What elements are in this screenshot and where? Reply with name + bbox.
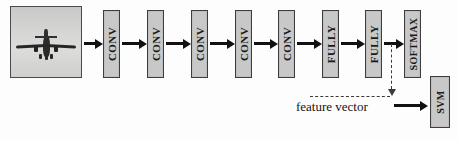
arrow-0 (84, 42, 96, 45)
layer-block-conv1: CONV (103, 10, 120, 78)
airplane-stabilizer-left (35, 36, 46, 38)
airplane-wing-right (46, 44, 76, 49)
layer-block-fully1: FULLY (322, 10, 339, 78)
feature-vector-label: feature vector (296, 99, 368, 115)
airplane-engine-left (34, 46, 38, 52)
arrow-5 (297, 42, 315, 45)
layer-block-conv3: CONV (191, 10, 208, 78)
arrow-3 (210, 42, 228, 45)
layer-block-label-conv2: CONV (150, 27, 162, 61)
layer-block-fully2: FULLY (365, 10, 382, 78)
airplane-landing-gear-left (39, 54, 42, 59)
layer-block-label-softmax: SOFTMAX (407, 18, 418, 71)
input-image (10, 6, 82, 78)
layer-block-label-fully2: FULLY (368, 25, 380, 63)
feature-vector-tap-arrow (391, 44, 392, 89)
layer-block-label-conv4: CONV (238, 27, 250, 61)
svm-block-label: SVM (435, 90, 446, 113)
layer-block-label-fully1: FULLY (325, 25, 337, 63)
airplane-landing-gear-right (50, 54, 53, 59)
layer-block-conv5: CONV (278, 10, 295, 78)
arrow-2 (166, 42, 184, 45)
arrow-to-svm (394, 104, 421, 107)
arrow-4 (254, 42, 271, 45)
airplane-icon (11, 33, 81, 63)
layer-block-label-conv3: CONV (194, 27, 206, 61)
arrow-1 (122, 42, 140, 45)
airplane-wing-left (16, 44, 46, 49)
airplane-stabilizer-right (46, 36, 57, 38)
diagram-canvas: CONVCONVCONVCONVCONVFULLYFULLYSOFTMAX fe… (0, 0, 458, 141)
layer-block-label-conv1: CONV (106, 27, 118, 61)
feature-vector-line (310, 96, 390, 97)
layer-block-label-conv5: CONV (281, 27, 293, 61)
airplane-landing-gear-center (45, 55, 48, 60)
layer-block-conv4: CONV (235, 10, 252, 78)
arrow-6 (341, 42, 358, 45)
airplane-engine-right (54, 46, 58, 52)
layer-block-conv2: CONV (147, 10, 164, 78)
svm-block: SVM (430, 76, 450, 128)
layer-block-softmax: SOFTMAX (404, 10, 421, 78)
